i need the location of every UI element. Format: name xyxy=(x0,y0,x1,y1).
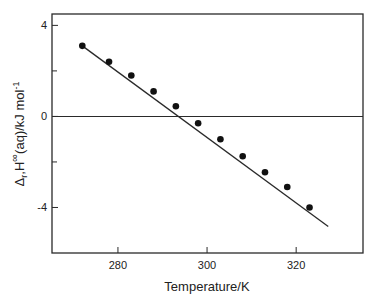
y-axis-title: Δr,H∞(aq)/kJ mol-1 xyxy=(8,82,29,187)
x-tick-label: 280 xyxy=(109,259,127,271)
data-point xyxy=(284,184,291,191)
data-point xyxy=(106,59,113,66)
fit-line xyxy=(82,46,328,227)
data-point xyxy=(306,204,313,211)
data-point xyxy=(150,88,157,95)
data-point xyxy=(195,120,202,127)
data-point xyxy=(128,72,135,79)
data-point xyxy=(79,43,86,50)
data-point xyxy=(262,169,269,176)
x-axis-ticks: 280300320 xyxy=(109,247,306,271)
y-axis-title-text: Δr,H∞(aq)/kJ mol-1 xyxy=(8,82,29,187)
data-points xyxy=(79,43,313,211)
data-point xyxy=(239,153,246,160)
chart: 40-4 280300320 Temperature/K Δr,H∞(aq)/k… xyxy=(0,0,379,302)
y-tick-label: 4 xyxy=(41,19,47,31)
y-tick-label: -4 xyxy=(37,201,47,213)
x-tick-label: 320 xyxy=(287,259,305,271)
x-tick-label: 300 xyxy=(198,259,216,271)
y-tick-label: 0 xyxy=(41,110,47,122)
y-axis-ticks: 40-4 xyxy=(37,19,58,213)
data-point xyxy=(217,136,224,143)
data-point xyxy=(173,103,180,110)
x-axis-title: Temperature/K xyxy=(164,279,250,294)
fit-curve xyxy=(82,46,328,227)
